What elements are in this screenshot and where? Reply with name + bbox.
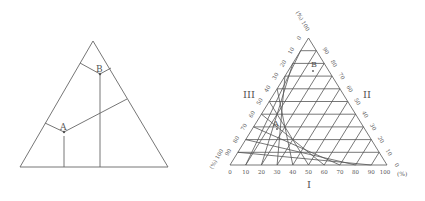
left-tick-label: 80	[232, 135, 241, 144]
left-tick-label: 0	[295, 35, 302, 41]
right-tick-label: 70	[337, 72, 346, 81]
right-tick-label: 10	[385, 148, 394, 157]
right-tick-label: 90	[322, 46, 331, 55]
left-ternary-diagram	[20, 41, 168, 167]
base-tick-label: 0	[228, 169, 232, 175]
base-tick-label: 100	[380, 169, 391, 175]
right-ternary-grid	[230, 38, 387, 165]
base-tick-label: 20	[258, 169, 265, 175]
right-tick-label: 30	[369, 122, 378, 131]
right-tick-label: 60	[345, 84, 354, 93]
bottom-left-corner-label: (%) 100	[208, 148, 224, 170]
left-tick-label: 30	[271, 71, 280, 80]
top-corner-label: (%) 100	[295, 10, 311, 32]
base-tick-label: 10	[242, 169, 249, 175]
left-tick-label: 20	[279, 58, 288, 67]
right-ternary-ticks: 0102030405060708090100010203040506070809…	[208, 10, 400, 175]
left-tick-label: 10	[287, 46, 296, 55]
right-tick-label: 20	[377, 135, 386, 144]
left-tick-label: 50	[255, 97, 264, 106]
base-tick-label: 60	[321, 169, 328, 175]
right-tick-label: 0	[393, 162, 400, 168]
left-label-a: A	[59, 122, 67, 132]
grid-line-rising	[277, 76, 332, 165]
grid-line-rising	[340, 127, 364, 165]
left-tick-label: 40	[263, 84, 272, 93]
axis-label-iii: III	[243, 89, 255, 100]
base-tick-label: 40	[289, 169, 296, 175]
right-label-b: B	[311, 60, 317, 69]
base-tick-label: 30	[274, 169, 281, 175]
right-tick-label: 50	[353, 97, 362, 106]
a-perp-right	[64, 99, 127, 132]
base-tick-label: 90	[368, 169, 375, 175]
left-label-b: B	[96, 64, 103, 74]
left-tick-label: 70	[239, 122, 248, 131]
right-point-a	[276, 128, 278, 130]
right-tick-label: 40	[361, 110, 370, 119]
right-tick-label: 80	[330, 59, 339, 68]
left-triangle-outline	[20, 41, 168, 167]
grid-line-rising	[371, 152, 379, 165]
left-tick-label: 60	[247, 109, 256, 118]
right-point-b	[312, 70, 314, 72]
base-tick-label: 80	[352, 169, 359, 175]
right-label-a: A	[272, 119, 279, 128]
base-unit-label: (%)	[397, 170, 407, 177]
base-tick-label: 50	[305, 169, 312, 175]
base-tick-label: 70	[336, 169, 343, 175]
axis-label-i: I	[307, 179, 311, 190]
axis-label-ii: II	[363, 89, 371, 100]
ternary-figure: A B 010203040506070809010001020304050607…	[0, 0, 425, 201]
left-tick-label: 90	[224, 147, 233, 156]
grid-line-falling	[238, 152, 371, 165]
